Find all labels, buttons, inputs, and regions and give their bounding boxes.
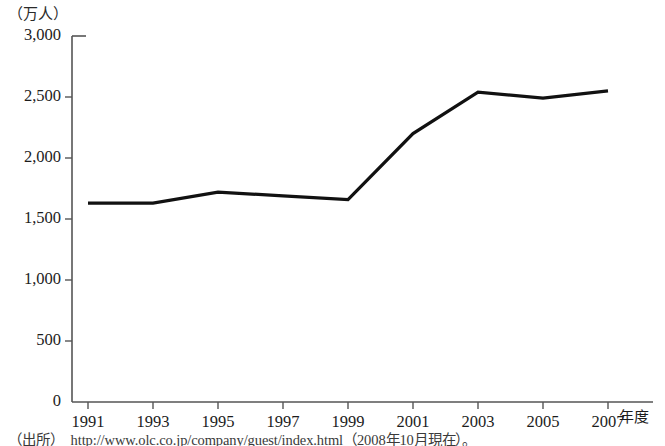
y-axis-tick-label: 2,000 — [3, 147, 61, 167]
x-axis-ticks — [88, 402, 608, 409]
y-axis-tick-label: 500 — [3, 330, 61, 350]
y-axis-tick-label: 3,000 — [3, 25, 61, 45]
y-axis-tick-label: 1,500 — [3, 208, 61, 228]
x-axis-tick-label: 2005 — [508, 412, 578, 432]
y-axis-ticks — [65, 97, 72, 341]
source-tag: （出所） — [8, 432, 64, 446]
chart-figure: （万人） 05001,0001,5002,0002,5003,000 19911… — [0, 0, 665, 446]
y-axis-tick-label: 2,500 — [3, 86, 61, 106]
y-axis-tick-label: 0 — [3, 391, 61, 411]
source-note: （出所）http://www.olc.co.jp/company/guest/i… — [8, 428, 476, 446]
y-axis-tick-label: 1,000 — [3, 269, 61, 289]
source-text: http://www.olc.co.jp/company/guest/index… — [71, 432, 477, 446]
line-chart-plot — [0, 0, 665, 446]
x-axis-unit-label: 年度 — [619, 405, 649, 426]
data-series-line — [88, 91, 608, 203]
